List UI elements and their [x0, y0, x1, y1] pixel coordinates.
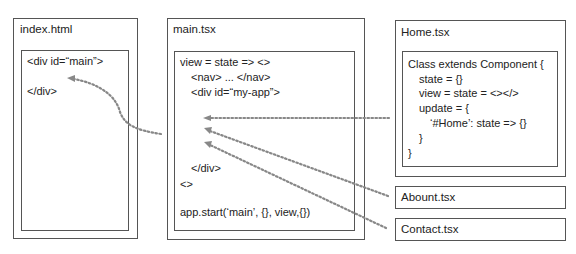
- code-line: app.start(‘main’, {}, view,{}): [180, 206, 310, 218]
- main-tsx-title: main.tsx: [173, 22, 216, 36]
- code-line: <nav> ... </nav>: [191, 71, 271, 83]
- code-line: }: [408, 147, 412, 159]
- code-line: </div>: [191, 162, 221, 174]
- contact-tsx-title: Contact.tsx: [401, 222, 459, 236]
- home-tsx-title: Home.tsx: [401, 25, 450, 39]
- code-line: ‘#Home’: state => {}: [430, 117, 527, 129]
- index-html-code-box: [21, 50, 129, 231]
- about-tsx-title: Abount.tsx: [401, 190, 455, 204]
- code-line: }: [419, 132, 423, 144]
- code-line: <>: [180, 178, 193, 190]
- code-line: </div>: [27, 85, 57, 97]
- code-line: view = state => <>: [180, 56, 270, 68]
- code-line: <div id=“main”>: [27, 55, 103, 67]
- code-line: state = {}: [419, 73, 463, 85]
- code-line: view = state = <></>: [419, 87, 519, 99]
- index-html-title: index.html: [20, 22, 72, 36]
- code-line: update = {: [419, 102, 469, 114]
- code-line: <div id=“my-app”>: [191, 86, 280, 98]
- code-line: Class extends Component {: [408, 58, 544, 70]
